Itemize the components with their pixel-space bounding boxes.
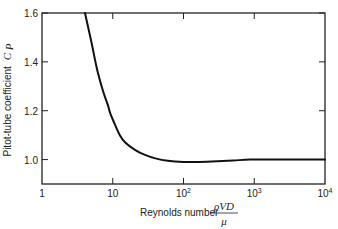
y-tick-label: 1.6	[24, 8, 38, 19]
x-axis-title-text: Reynolds number	[140, 207, 219, 218]
x-axis-ticks: 110102103104	[39, 13, 332, 199]
y-axis-title: Pitot-tube coefficient C P	[1, 43, 15, 156]
x-tick-label: 1	[39, 188, 45, 199]
x-axis-title: Reynolds number ρVD μ	[140, 200, 238, 227]
chart: 110102103104 1.01.21.41.6 Pitot-tube coe…	[0, 0, 338, 229]
plot-frame	[42, 13, 325, 184]
y-tick-label: 1.0	[24, 155, 38, 166]
y-axis-subscript: P	[3, 43, 15, 51]
svg-text:Pitot-tube coefficient C: Pitot-tube coefficient C P	[1, 43, 15, 156]
x-axis-fraction-denominator: μ	[220, 215, 227, 227]
y-axis-ticks: 1.01.21.41.6	[24, 8, 325, 166]
series-line-pitot-coefficient	[85, 13, 325, 162]
x-tick-label: 104	[317, 187, 332, 199]
x-axis-fraction-numerator: ρVD	[213, 200, 234, 212]
y-tick-label: 1.4	[24, 57, 38, 68]
x-tick-label: 103	[247, 187, 262, 199]
y-tick-label: 1.2	[24, 106, 38, 117]
x-tick-label: 102	[176, 187, 191, 199]
y-axis-symbol: C	[1, 52, 13, 60]
y-axis-title-text: Pitot-tube coefficient	[2, 66, 13, 157]
x-tick-label: 10	[107, 188, 119, 199]
